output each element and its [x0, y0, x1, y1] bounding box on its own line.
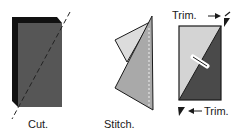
dog-ear-top-tip: [225, 12, 230, 16]
stitch-panel: [115, 16, 153, 110]
cut-panel: [12, 12, 70, 119]
dog-ear-bottom-icon: [178, 107, 185, 116]
trim-bottom-caption: Trim.: [204, 105, 229, 117]
fabric-stack-face: [18, 23, 62, 107]
dog-ear-top-icon: [224, 18, 230, 27]
trim-panel: [178, 12, 230, 116]
trim-top-caption: Trim.: [172, 9, 197, 21]
arrowhead-top-icon: [215, 13, 221, 19]
stitch-caption: Stitch.: [104, 118, 135, 130]
cut-caption: Cut.: [28, 118, 48, 130]
